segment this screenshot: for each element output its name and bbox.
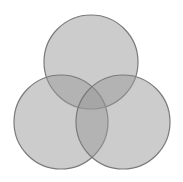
venn-diagram	[0, 0, 183, 182]
venn-circle-right	[76, 75, 170, 169]
